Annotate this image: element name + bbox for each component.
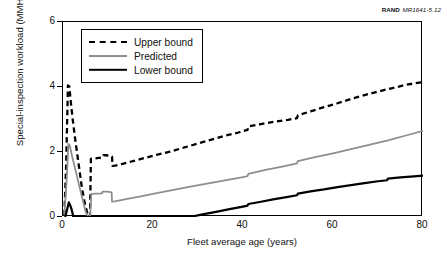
y-tick-label-2: 2 bbox=[33, 145, 55, 156]
figure-container: RANDMR1641-5.12 Special-inspection workl… bbox=[0, 0, 447, 257]
legend-item-lower-bound: Lower bound bbox=[89, 63, 193, 77]
x-tick-label-60: 60 bbox=[319, 219, 345, 230]
y-tick-label-6: 6 bbox=[33, 15, 55, 26]
source-credit-publisher: RAND bbox=[382, 6, 400, 13]
x-tick-label-20: 20 bbox=[139, 219, 165, 230]
chart-legend: Upper bound Predicted Lower bound bbox=[81, 29, 203, 83]
series-line-lower-bound bbox=[65, 176, 423, 217]
source-credit: RANDMR1641-5.12 bbox=[382, 6, 441, 13]
series-layer bbox=[64, 82, 423, 217]
y-tick-mark-0 bbox=[57, 216, 62, 217]
series-line-upper-bound bbox=[64, 82, 423, 217]
source-credit-docid: MR1641-5.12 bbox=[402, 6, 441, 13]
y-tick-label-4: 4 bbox=[33, 80, 55, 91]
x-axis-title-text: Fleet average age (years) bbox=[187, 236, 297, 247]
gray-line-swatch-icon bbox=[89, 51, 127, 62]
x-tick-label-80: 80 bbox=[409, 219, 435, 230]
legend-label-predicted: Predicted bbox=[134, 51, 177, 62]
legend-item-upper-bound: Upper bound bbox=[89, 35, 193, 49]
y-axis-title-text: Special-inspection workload (MMH/FH) bbox=[14, 0, 25, 146]
legend-label-lower-bound: Lower bound bbox=[134, 65, 193, 76]
x-axis-title: Fleet average age (years) bbox=[62, 236, 422, 247]
x-tick-label-40: 40 bbox=[229, 219, 255, 230]
x-tick-label-0: 0 bbox=[49, 219, 75, 230]
dashed-line-swatch-icon bbox=[89, 37, 127, 48]
legend-item-predicted: Predicted bbox=[89, 49, 193, 63]
black-line-swatch-icon bbox=[89, 65, 127, 76]
legend-label-upper-bound: Upper bound bbox=[134, 37, 193, 48]
series-line-predicted bbox=[64, 131, 423, 217]
